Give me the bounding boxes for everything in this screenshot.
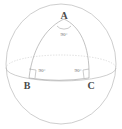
- angle-label-a: 90°: [61, 32, 68, 37]
- vertex-label-a: A: [60, 10, 68, 21]
- vertex-label-c: C: [87, 80, 94, 91]
- right-angle-marker-c: [83, 69, 89, 78]
- vertex-label-b: B: [24, 80, 31, 91]
- spherical-triangle-figure: A B C 90° 90° 90°: [0, 0, 122, 129]
- sphere-outline: [6, 4, 116, 124]
- angle-label-c: 90°: [75, 68, 82, 73]
- angle-label-b: 90°: [39, 68, 46, 73]
- equator-back-arc: [6, 55, 116, 68]
- equator-front-arc: [6, 68, 116, 81]
- angle-arc-marker-a: [57, 26, 71, 29]
- sphere-diagram-canvas: A B C 90° 90° 90°: [0, 0, 122, 129]
